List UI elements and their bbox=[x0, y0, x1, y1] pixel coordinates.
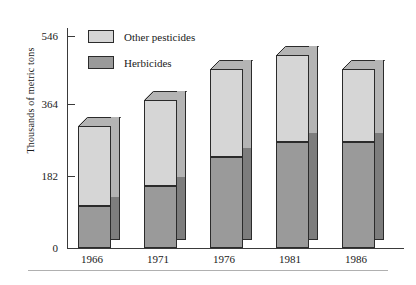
bar-side-herbicides-1971 bbox=[177, 177, 186, 240]
dark-gray-swatch-icon bbox=[88, 56, 114, 69]
y-tick-label-0: 0 bbox=[18, 242, 58, 254]
y-tick-mark-0 bbox=[68, 248, 75, 249]
stacked-bar-chart: Thousands of metric tons 546 364 182 0 1… bbox=[0, 0, 416, 285]
bar-side-other-pesticides-1981 bbox=[309, 46, 318, 133]
bar-segment-herbicides-1981 bbox=[276, 142, 309, 248]
bar-side-herbicides-1976 bbox=[243, 148, 252, 240]
bar-side-herbicides-1981 bbox=[309, 133, 318, 240]
bar-side-other-pesticides-1976 bbox=[243, 60, 252, 147]
bar-side-herbicides-1986 bbox=[375, 133, 384, 240]
bar-segment-herbicides-1976 bbox=[210, 157, 243, 248]
y-tick-label-364: 364 bbox=[18, 98, 58, 110]
legend-item-other-pesticides: Other pesticides bbox=[88, 30, 195, 43]
bar-segment-other-pesticides-1971 bbox=[144, 100, 177, 187]
bar-side-other-pesticides-1971 bbox=[177, 91, 186, 178]
bar-segment-other-pesticides-1976 bbox=[210, 69, 243, 156]
bar-side-herbicides-1966 bbox=[111, 197, 120, 240]
y-tick-label-546: 546 bbox=[18, 30, 58, 42]
legend-item-herbicides: Herbicides bbox=[88, 56, 195, 69]
bar-column-1976 bbox=[210, 0, 252, 285]
x-tick-label-1966: 1966 bbox=[64, 253, 120, 265]
y-axis-line bbox=[67, 28, 68, 249]
y-tick-label-182: 182 bbox=[18, 170, 58, 182]
chart-legend: Other pesticides Herbicides bbox=[88, 30, 195, 82]
bar-segment-herbicides-1966 bbox=[78, 206, 111, 248]
legend-label-other-pesticides: Other pesticides bbox=[124, 31, 195, 43]
bar-segment-other-pesticides-1966 bbox=[78, 126, 111, 206]
bar-segment-other-pesticides-1981 bbox=[276, 55, 309, 142]
x-tick-label-1971: 1971 bbox=[130, 253, 186, 265]
y-tick-mark-546 bbox=[68, 36, 75, 37]
bar-column-1986 bbox=[342, 0, 384, 285]
x-tick-label-1986: 1986 bbox=[328, 253, 384, 265]
legend-label-herbicides: Herbicides bbox=[124, 57, 172, 69]
y-tick-mark-364 bbox=[68, 104, 75, 105]
bar-side-other-pesticides-1966 bbox=[111, 117, 120, 197]
bar-segment-herbicides-1971 bbox=[144, 186, 177, 248]
bar-segment-herbicides-1986 bbox=[342, 142, 375, 248]
bar-side-other-pesticides-1986 bbox=[375, 60, 384, 133]
bottom-divider bbox=[28, 270, 388, 271]
bar-segment-other-pesticides-1986 bbox=[342, 69, 375, 142]
y-axis-tick-labels: 546 364 182 0 bbox=[18, 0, 58, 285]
light-gray-swatch-icon bbox=[88, 30, 114, 43]
x-tick-label-1981: 1981 bbox=[262, 253, 318, 265]
x-tick-label-1976: 1976 bbox=[196, 253, 252, 265]
bar-column-1981 bbox=[276, 0, 318, 285]
y-tick-mark-182 bbox=[68, 176, 75, 177]
